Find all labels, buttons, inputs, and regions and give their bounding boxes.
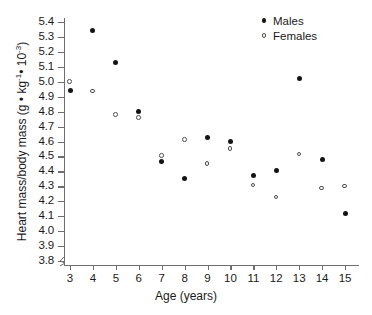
y-tick-label-wrap: 4.7: [0, 121, 58, 133]
legend: Males Females: [258, 13, 358, 43]
x-tick-label: 11: [241, 272, 265, 284]
y-tick-label-wrap: 3.9: [0, 240, 58, 252]
y-tick: [58, 246, 64, 247]
x-tick-label: 13: [287, 272, 311, 284]
y-tick-label-wrap: 4.6: [0, 136, 58, 148]
y-tick-label: 4.0: [28, 225, 54, 237]
y-tick-label-wrap: 5.0: [0, 76, 58, 88]
y-tick-label-wrap: 4.3: [0, 180, 58, 192]
y-tick: [58, 201, 64, 202]
data-point-male[interactable]: [113, 60, 118, 65]
x-tick-label: 6: [127, 272, 151, 284]
y-tick-label-wrap: 4.0: [0, 225, 58, 237]
x-tick: [208, 265, 209, 270]
scatter-chart-figure: Heart mass/body mass (g • kg-1• 10-3) 5.…: [0, 0, 372, 315]
data-point-male[interactable]: [205, 135, 210, 140]
x-axis-line: [64, 265, 359, 266]
x-tick-label: 15: [333, 272, 357, 284]
y-tick: [58, 82, 64, 83]
x-tick-label: 5: [104, 272, 128, 284]
y-tick: [58, 186, 64, 187]
data-point-female[interactable]: [136, 115, 141, 120]
y-tick-label-wrap: 4.9: [0, 91, 58, 103]
y-tick-label: 5.2: [28, 46, 54, 58]
x-tick-label: 10: [218, 272, 242, 284]
y-tick-label-wrap: 5.4: [0, 16, 58, 28]
data-point-male[interactable]: [182, 176, 187, 181]
x-tick-label: 4: [81, 272, 105, 284]
y-tick-label: 3.8: [28, 255, 54, 267]
data-point-male[interactable]: [251, 173, 256, 178]
open-circle-icon: [258, 33, 270, 38]
x-tick: [162, 265, 163, 270]
data-point-female[interactable]: [274, 195, 279, 200]
data-point-male[interactable]: [68, 88, 73, 93]
data-point-female[interactable]: [67, 79, 72, 84]
data-point-female[interactable]: [90, 89, 95, 94]
x-tick: [253, 265, 254, 270]
legend-item-females[interactable]: Females: [258, 28, 358, 43]
y-tick: [58, 261, 64, 262]
y-tick-label: 5.0: [28, 76, 54, 88]
y-tick: [58, 52, 64, 53]
data-point-female[interactable]: [159, 153, 164, 158]
y-tick-label: 4.1: [28, 210, 54, 222]
y-tick-label: 5.1: [28, 61, 54, 73]
y-tick-label-wrap: 5.3: [0, 31, 58, 43]
y-tick: [58, 171, 64, 172]
x-tick-label: 8: [173, 272, 197, 284]
legend-item-males[interactable]: Males: [258, 13, 358, 28]
y-tick-label: 4.9: [28, 91, 54, 103]
y-tick: [58, 67, 64, 68]
y-tick-label: 4.6: [28, 136, 54, 148]
y-tick-label-wrap: 3.8: [0, 255, 58, 267]
y-tick: [58, 97, 64, 98]
y-tick-label: 4.3: [28, 180, 54, 192]
y-tick-label: 5.3: [28, 31, 54, 43]
y-tick-label-wrap: 5.2: [0, 46, 58, 58]
x-tick-label: 9: [196, 272, 220, 284]
x-tick-label: 3: [58, 272, 82, 284]
y-tick-label-wrap: 4.1: [0, 210, 58, 222]
data-point-male[interactable]: [136, 109, 141, 114]
x-tick: [230, 265, 231, 270]
y-tick-label: 5.4: [28, 16, 54, 28]
x-tick: [93, 265, 94, 270]
data-point-male[interactable]: [297, 76, 302, 81]
data-point-female[interactable]: [319, 186, 324, 191]
data-point-female[interactable]: [113, 112, 118, 117]
legend-label-females: Females: [270, 30, 317, 42]
y-tick: [58, 112, 64, 113]
x-tick: [70, 265, 71, 270]
x-tick-label: 14: [310, 272, 334, 284]
data-point-male[interactable]: [274, 168, 279, 173]
y-tick-label: 3.9: [28, 240, 54, 252]
data-point-male[interactable]: [320, 157, 325, 162]
y-tick-label: 4.7: [28, 121, 54, 133]
filled-circle-icon: [258, 18, 270, 23]
y-tick-label: 4.8: [28, 106, 54, 118]
x-tick: [116, 265, 117, 270]
data-point-female[interactable]: [251, 183, 256, 188]
x-tick: [299, 265, 300, 270]
y-tick: [58, 142, 64, 143]
legend-label-males: Males: [270, 15, 304, 27]
y-tick-label: 4.4: [28, 165, 54, 177]
y-tick-label: 4.5: [28, 150, 54, 162]
data-point-female[interactable]: [297, 152, 302, 157]
data-point-male[interactable]: [90, 28, 95, 33]
data-point-female[interactable]: [342, 184, 347, 189]
data-point-male[interactable]: [228, 139, 233, 144]
y-tick-label-wrap: 4.8: [0, 106, 58, 118]
data-point-female[interactable]: [205, 161, 210, 166]
y-tick: [58, 127, 64, 128]
data-point-male[interactable]: [343, 211, 348, 216]
y-tick-label: 4.2: [28, 195, 54, 207]
data-point-male[interactable]: [159, 159, 164, 164]
y-tick: [58, 22, 64, 23]
y-tick-label-wrap: 4.2: [0, 195, 58, 207]
x-tick: [345, 265, 346, 270]
data-point-female[interactable]: [228, 146, 233, 151]
y-tick-label-wrap: 4.4: [0, 165, 58, 177]
data-point-female[interactable]: [182, 137, 187, 142]
